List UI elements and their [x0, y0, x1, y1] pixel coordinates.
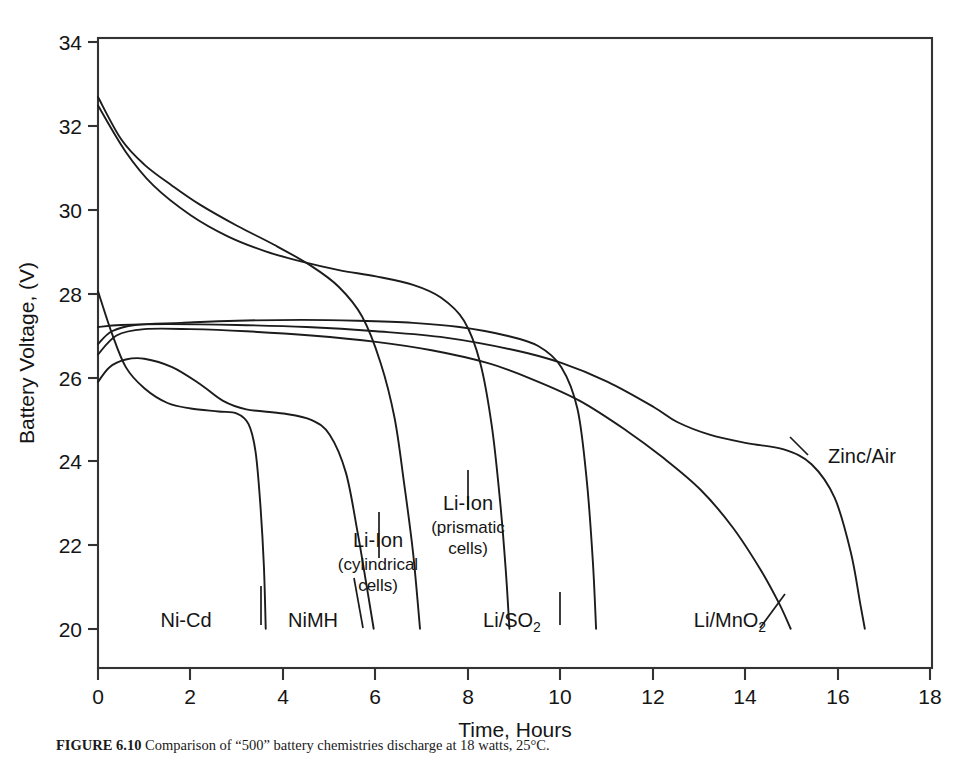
y-tick-label: 28	[59, 283, 82, 306]
curve-label-li-so2-sub: 2	[533, 619, 541, 635]
curve-label-li-ion-pris-sub2: cells)	[448, 539, 488, 558]
y-tick-label: 26	[59, 367, 82, 390]
y-tick-label: 32	[59, 115, 82, 138]
curve-label-li-mno2-sub: 2	[758, 619, 766, 635]
x-tick-labels: 0 2 4 6 8 10 12 14 16 18	[92, 685, 942, 708]
x-tick-label: 2	[184, 685, 196, 708]
curve-label-li-ion-cyl-sub2: cells)	[358, 576, 398, 595]
battery-discharge-chart: 20 22 24 26 28 30 32 34 0 2 4 6 8 10 12 …	[0, 0, 972, 760]
curve-label-nimh: NiMH	[288, 609, 338, 631]
x-tick-label: 4	[277, 685, 289, 708]
y-tick-label: 30	[59, 199, 82, 222]
curve-label-li-mno2: Li/MnO2	[694, 609, 766, 635]
x-tick-label: 12	[641, 685, 664, 708]
plot-frame	[98, 38, 932, 668]
curve-label-li-ion-prismatic: Li-Ion (prismatic cells)	[431, 492, 505, 558]
figure-caption-text: Comparison of “500” battery chemistries …	[145, 737, 550, 753]
curve-label-li-ion-cyl-main: Li-Ion	[353, 529, 403, 551]
y-tick-label: 24	[59, 450, 83, 473]
x-tick-label: 18	[918, 685, 941, 708]
curve-label-ni-cd: Ni-Cd	[160, 609, 211, 631]
x-tick-label: 16	[826, 685, 849, 708]
x-tick-label: 14	[733, 685, 757, 708]
figure-caption-label: FIGURE 6.10	[56, 737, 141, 753]
curve-label-li-mno2-main: Li/MnO	[694, 609, 758, 631]
y-axis-title: Battery Voltage, (V)	[15, 262, 38, 444]
y-tick-label: 20	[59, 618, 82, 641]
curve-label-zinc-air: Zinc/Air	[828, 445, 896, 467]
x-tick-label: 0	[92, 685, 104, 708]
figure-root: 20 22 24 26 28 30 32 34 0 2 4 6 8 10 12 …	[0, 0, 972, 760]
curve-label-li-ion-pris-sub1: (prismatic	[431, 518, 505, 537]
curve-label-li-so2: Li/SO2	[483, 609, 541, 635]
series-curve-li-mno2	[98, 329, 791, 629]
x-tick-label: 10	[548, 685, 571, 708]
x-axis-ticks	[98, 668, 930, 680]
curve-label-li-so2-main: Li/SO	[483, 609, 533, 631]
x-tick-label: 6	[369, 685, 381, 708]
x-tick-label: 8	[462, 685, 474, 708]
curve-label-li-ion-cyl-sub1: (cylindrical	[338, 555, 418, 574]
series-curve-ni-cd	[98, 291, 266, 629]
curve-label-li-ion-cylindrical: Li-Ion (cylindrical cells)	[338, 529, 418, 595]
curve-label-li-ion-pris-main: Li-Ion	[443, 492, 493, 514]
y-tick-label: 34	[59, 31, 83, 54]
y-tick-label: 22	[59, 534, 82, 557]
series-curve-nimh	[98, 358, 374, 629]
figure-caption: FIGURE 6.10 Comparison of “500” battery …	[56, 737, 936, 754]
y-axis-ticks	[88, 42, 98, 629]
y-tick-labels: 20 22 24 26 28 30 32 34	[59, 31, 83, 641]
